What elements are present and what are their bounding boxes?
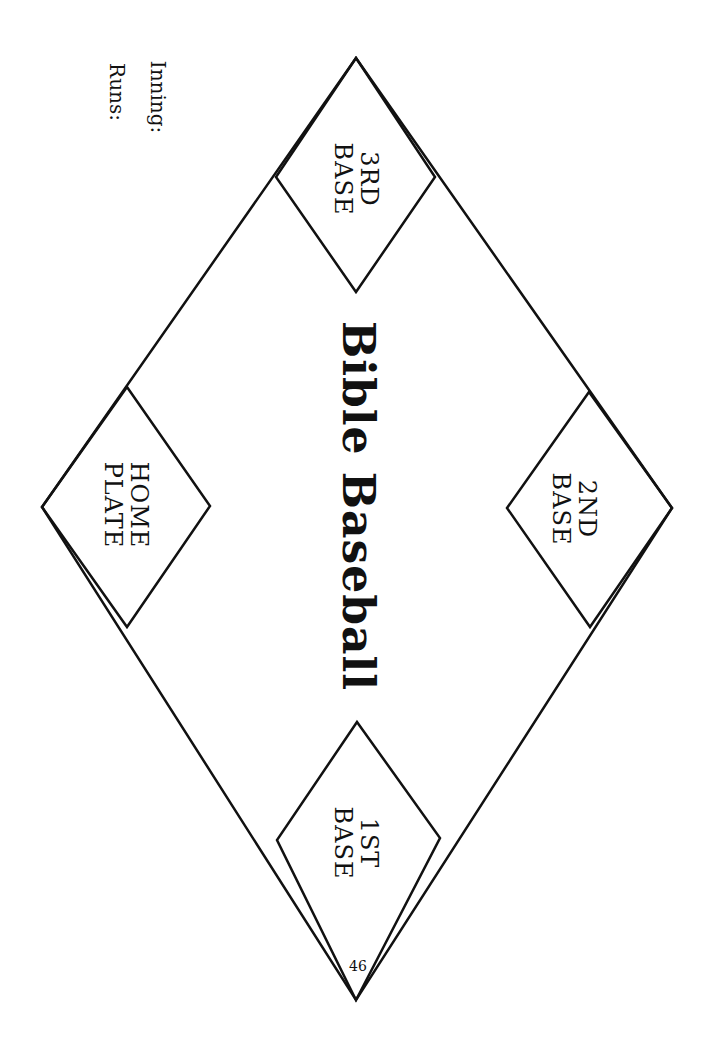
first-base-line1: 1ST	[356, 783, 382, 903]
second-base-line2: BASE	[548, 449, 574, 569]
home-plate-line1: HOME	[126, 440, 152, 570]
runs-label: Runs:	[105, 42, 129, 142]
page-number: 46	[343, 958, 373, 974]
home-plate-label: HOME PLATE	[98, 440, 152, 570]
inning-label: Inning:	[146, 47, 170, 147]
third-base-line1: 3RD	[356, 119, 382, 239]
third-base-line2: BASE	[330, 119, 356, 239]
third-base-label: 3RD BASE	[328, 119, 382, 239]
page-title: Bible Baseball	[328, 286, 384, 726]
home-plate-line2: PLATE	[100, 440, 126, 570]
first-base-line2: BASE	[330, 783, 356, 903]
second-base-label: 2ND BASE	[546, 449, 600, 569]
second-base-line1: 2ND	[574, 449, 600, 569]
first-base-label: 1ST BASE	[328, 783, 382, 903]
